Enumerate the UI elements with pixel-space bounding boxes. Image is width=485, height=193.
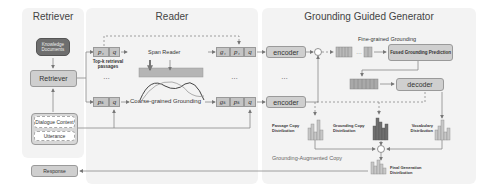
coarse-grounding-label: Coarse-grained Grounding <box>130 98 201 104</box>
grounding-augmented-copy-label: Grounding-Augmented Copy <box>272 155 342 161</box>
knowledge-documents-db: Knowledge Documents <box>36 38 70 56</box>
dialogue-context-label: Dialogue Context <box>34 116 75 128</box>
vocabulary-label: Vocabulary Distribution <box>403 124 433 133</box>
query-q1: q <box>109 47 120 57</box>
passage-p1: p₁ <box>93 47 109 57</box>
encoder-bottom: encoder <box>266 96 306 108</box>
decoder-box: decoder <box>396 78 444 91</box>
final-generation-label: Final Generation Distribution <box>390 166 430 175</box>
passage-pk: pₖ <box>93 97 109 107</box>
passage-copy-label: Passage Copy Distribution <box>272 124 306 133</box>
passage-p1-right: p₁ <box>230 47 244 57</box>
utterance-label: Utterance <box>34 131 75 141</box>
response-box: Response <box>31 165 78 177</box>
retriever-box: Retriever <box>30 70 77 87</box>
fused-grounding-prediction-box: Fused Grounding Prediction <box>388 44 453 61</box>
span-reader-label: Span Reader <box>148 49 180 55</box>
reader-ellipsis-left: … <box>103 73 110 80</box>
svg-text:…: … <box>356 49 362 55</box>
passage-pk-right: pₖ <box>230 97 244 107</box>
top-k-label: Top-k retrieval passages <box>90 59 126 69</box>
reader-ellipsis-right: … <box>231 73 238 80</box>
encoder-top: encoder <box>266 46 306 58</box>
query-q1-right: q <box>244 47 256 57</box>
fine-grained-label: Fine-grained Grounding <box>358 36 416 42</box>
query-qk: q <box>109 97 120 107</box>
grounding-copy-label: Grounding Copy Distribution <box>333 124 371 133</box>
grounding-gk: gₖ <box>216 97 230 107</box>
query-qk-right: q <box>244 97 256 107</box>
encoder-ellipsis: … <box>281 73 288 80</box>
grounding-g1: g₁ <box>216 47 230 57</box>
